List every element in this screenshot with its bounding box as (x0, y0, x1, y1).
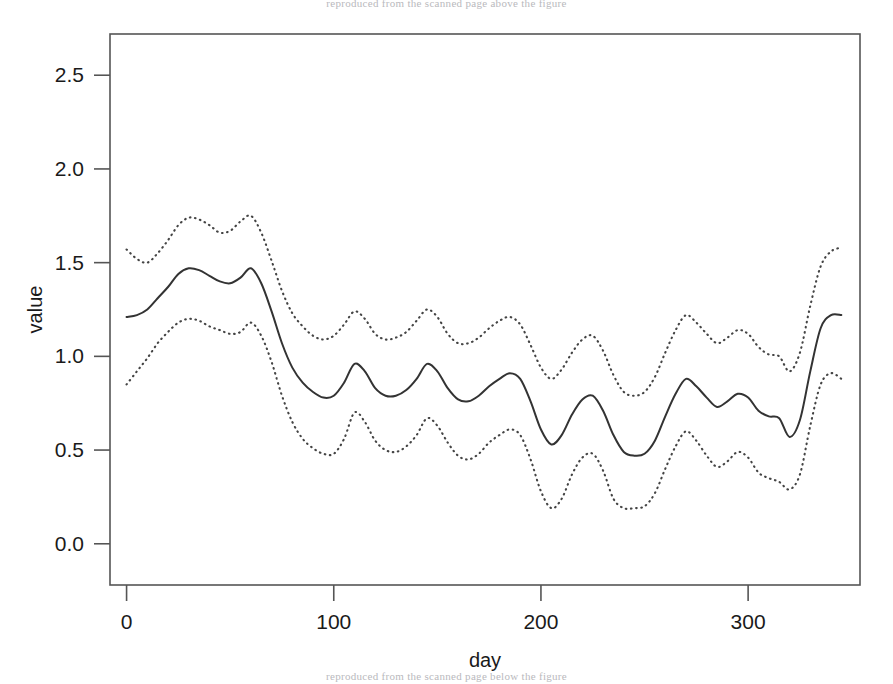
svg-text:0.0: 0.0 (55, 532, 84, 555)
svg-text:200: 200 (523, 610, 558, 633)
x-axis: 0100200300 (121, 585, 766, 633)
y-axis-title: value (24, 286, 46, 334)
document-text-bottom: reproduced from the scanned page below t… (0, 669, 893, 683)
x-axis-title: day (469, 649, 501, 671)
svg-text:1.5: 1.5 (55, 251, 84, 274)
svg-text:0.5: 0.5 (55, 438, 84, 461)
lower-confidence-band (127, 319, 842, 509)
upper-confidence-band (127, 215, 842, 395)
svg-text:2.0: 2.0 (55, 157, 84, 180)
document-text-top: reproduced from the scanned page above t… (0, 0, 893, 10)
figure-container: reproduced from the scanned page above t… (0, 0, 893, 684)
plot-box (110, 34, 860, 585)
svg-text:day: day (469, 649, 501, 671)
line-chart: 0100200300 0.00.51.01.52.02.5 day value (0, 0, 893, 684)
svg-text:0: 0 (121, 610, 133, 633)
svg-text:100: 100 (316, 610, 351, 633)
fit-line (127, 268, 842, 456)
svg-text:1.0: 1.0 (55, 344, 84, 367)
y-axis: 0.00.51.01.52.02.5 (55, 63, 110, 555)
svg-text:value: value (24, 286, 46, 334)
svg-text:2.5: 2.5 (55, 63, 84, 86)
svg-text:300: 300 (731, 610, 766, 633)
